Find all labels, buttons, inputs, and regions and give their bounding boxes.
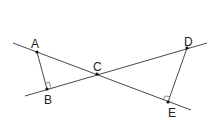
segment-AB — [37, 52, 47, 89]
segment-DE — [168, 48, 187, 102]
label-B: B — [44, 93, 52, 107]
label-A: A — [31, 37, 39, 51]
line-AE — [13, 43, 191, 110]
point-B — [45, 87, 48, 90]
label-E: E — [168, 106, 176, 120]
label-C: C — [93, 60, 102, 74]
label-D: D — [184, 35, 193, 49]
geometry-diagram: A B C D E — [0, 0, 217, 133]
point-E — [166, 100, 169, 103]
